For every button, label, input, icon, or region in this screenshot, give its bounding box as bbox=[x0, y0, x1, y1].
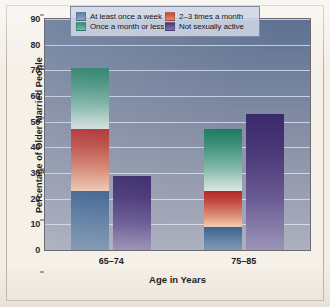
x-axis-label: Age in Years bbox=[44, 274, 311, 285]
legend-label: 2–3 times a month bbox=[179, 12, 243, 21]
legend-row: At least once a week 2–3 times a month bbox=[76, 12, 254, 21]
legend-label: Not sexually active bbox=[179, 22, 244, 31]
y-tick-mark bbox=[40, 271, 44, 272]
legend-swatch-icon bbox=[76, 22, 86, 31]
bar-group2-inactive bbox=[246, 114, 284, 250]
legend-item-once-a-month-or-less: Once a month or less bbox=[76, 22, 165, 31]
chart-figure: 0102030405060708090 Percentage of Older … bbox=[0, 0, 330, 307]
legend-swatch-icon bbox=[165, 22, 175, 31]
bar-segment bbox=[71, 129, 109, 191]
bar-group1-frequency bbox=[71, 68, 109, 250]
bar-group1-inactive bbox=[113, 176, 151, 250]
x-tick-label: 75–85 bbox=[231, 256, 256, 266]
legend-label: Once a month or less bbox=[90, 22, 164, 31]
plot-area bbox=[44, 18, 311, 251]
y-tick-label: 0 bbox=[35, 245, 40, 255]
legend-item-at-least-once-a-week: At least once a week bbox=[76, 12, 165, 21]
y-axis-label-holder: Percentage of Older Married People bbox=[18, 18, 28, 251]
x-tick-label: 65–74 bbox=[99, 256, 124, 266]
legend-row: Once a month or less Not sexually active bbox=[76, 22, 254, 31]
bar-group2-frequency bbox=[204, 129, 242, 250]
x-axis-ticks: 65–7475–85 bbox=[44, 256, 311, 270]
bar-segment bbox=[113, 176, 151, 250]
gridline bbox=[45, 45, 310, 46]
legend-item-2-3-times-a-month: 2–3 times a month bbox=[165, 12, 254, 21]
y-axis-label: Percentage of Older Married People bbox=[34, 45, 44, 225]
y-tick-mark bbox=[40, 15, 44, 16]
legend-swatch-icon bbox=[165, 12, 175, 21]
chart-legend: At least once a week 2–3 times a month O… bbox=[70, 6, 260, 37]
bar-segment bbox=[71, 68, 109, 130]
legend-item-not-sexually-active: Not sexually active bbox=[165, 22, 254, 31]
bar-segment bbox=[204, 227, 242, 250]
legend-swatch-icon bbox=[76, 12, 86, 21]
bar-segment bbox=[71, 191, 109, 250]
bar-segment bbox=[204, 129, 242, 191]
bar-segment bbox=[246, 114, 284, 250]
bar-segment bbox=[204, 191, 242, 227]
legend-label: At least once a week bbox=[90, 12, 162, 21]
y-tick-label: 90 bbox=[30, 14, 40, 24]
